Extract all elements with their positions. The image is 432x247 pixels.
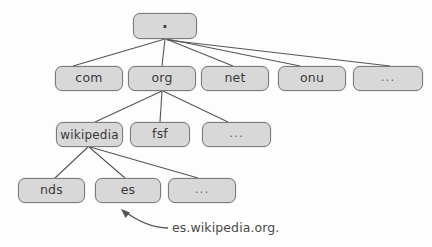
edge-root-to-org: [162, 39, 165, 66]
node-com[interactable]: com: [55, 66, 123, 91]
node-wikipedia-label: wikipedia: [60, 129, 119, 141]
node-nds-label: nds: [40, 184, 63, 197]
edge-root-to-com: [73, 39, 165, 66]
edge-root-to-onu: [167, 39, 300, 66]
scan-artifact-top: [215, 8, 219, 21]
edge-root-to-dots1: [167, 40, 390, 66]
node-org[interactable]: org: [128, 66, 196, 91]
node-com-label: com: [75, 72, 102, 85]
edge-wikipedia-to-es: [89, 147, 125, 178]
node-fsf[interactable]: fsf: [130, 122, 190, 147]
node-wikipedia[interactable]: wikipedia: [56, 122, 123, 147]
edge-root-to-net: [166, 39, 233, 66]
node-fsf-label: fsf: [152, 128, 168, 141]
node-sld-ellipsis-label: ...: [229, 127, 243, 139]
node-onu[interactable]: onu: [278, 66, 346, 91]
node-es[interactable]: es: [95, 178, 161, 203]
annotation-arrowhead: [121, 209, 130, 218]
edge-org-to-fsf: [160, 91, 162, 122]
node-onu-label: onu: [300, 72, 324, 85]
node-sld-ellipsis[interactable]: ...: [202, 122, 271, 147]
annotation-label: es.wikipedia.org.: [172, 220, 279, 235]
edge-org-to-wikipedia: [95, 91, 162, 122]
node-tld-ellipsis-label: ...: [381, 71, 395, 83]
node-root[interactable]: .: [133, 13, 197, 39]
node-tld-ellipsis[interactable]: ...: [353, 66, 423, 91]
edge-org-to-dots2: [163, 91, 228, 122]
node-es-label: es: [121, 184, 136, 197]
node-root-label: .: [162, 16, 168, 31]
node-org-label: org: [151, 72, 172, 85]
node-net-label: net: [224, 72, 245, 85]
node-subdomain-ellipsis-label: ...: [195, 183, 209, 195]
node-net[interactable]: net: [201, 66, 269, 91]
node-nds[interactable]: nds: [18, 178, 85, 203]
annotation-text: es.wikipedia.org.: [172, 220, 279, 235]
node-subdomain-ellipsis[interactable]: ...: [168, 178, 236, 203]
annotation-arrow-curve: [124, 211, 168, 228]
edge-wikipedia-to-nds: [55, 147, 88, 178]
diagram-canvas: . com org net onu ... wikipedia fsf ... …: [0, 0, 432, 247]
edge-wikipedia-to-dots3: [90, 147, 198, 178]
